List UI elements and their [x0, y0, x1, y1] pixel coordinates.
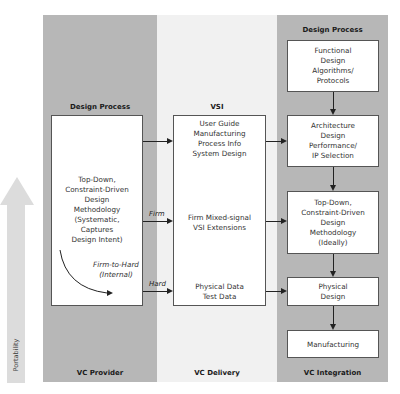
box-line: Constraint-Driven	[288, 208, 378, 218]
box-line: Protocols	[288, 76, 378, 86]
arrow-line	[333, 92, 334, 109]
box-line: (Ideally)	[288, 238, 378, 248]
box-line: Algorithms/	[288, 66, 378, 76]
arrow-right-icon	[167, 138, 173, 144]
arrow-line	[333, 254, 334, 271]
arrow-line	[266, 291, 281, 292]
arrow-right-icon	[167, 218, 173, 224]
box-line: Methodology	[288, 228, 378, 238]
box-line: Manufacturing	[288, 340, 378, 350]
arrow-line	[266, 141, 281, 142]
vsi-line: Manufacturing	[174, 129, 265, 139]
arrow-down-icon	[330, 109, 336, 115]
provider-methodology-box: Top-Down, Constraint-Driven Design Metho…	[51, 115, 143, 306]
vsi-line: Test Data	[174, 292, 265, 302]
physical-design-box: Physical Design	[287, 277, 379, 306]
integration-footer: VC Integration	[277, 369, 388, 377]
portability-label: Portability	[12, 339, 20, 372]
arrow-line	[143, 221, 167, 222]
manufacturing-box: Manufacturing	[287, 330, 379, 358]
functional-design-box: Functional Design Algorithms/ Protocols	[287, 40, 379, 92]
arrow-line	[143, 141, 167, 142]
provider-footer: VC Provider	[43, 369, 157, 377]
box-line: IP Selection	[288, 151, 378, 161]
vsi-line: Physical Data	[174, 282, 265, 292]
portability-arrow-head	[0, 177, 34, 205]
box-line: Design	[288, 218, 378, 228]
box-line: Architecture	[288, 121, 378, 131]
arrow-line	[143, 291, 167, 292]
box-line: Design	[288, 131, 378, 141]
box-line: Functional	[288, 46, 378, 56]
arrow-line	[333, 306, 334, 324]
vsi-box: User Guide Manufacturing Process Info Sy…	[173, 115, 266, 306]
integration-header: Design Process	[277, 26, 388, 34]
architecture-design-box: Architecture Design Performance/ IP Sele…	[287, 115, 379, 167]
vsi-line: VSI Extensions	[174, 223, 265, 233]
vsi-line: Process Info	[174, 139, 265, 149]
curved-arrow-icon	[52, 116, 144, 307]
box-line: Physical	[288, 282, 378, 292]
box-line: Design	[288, 292, 378, 302]
box-line: Design	[288, 56, 378, 66]
arrow-line	[333, 167, 334, 185]
box-line: Top-Down,	[288, 198, 378, 208]
vsi-line: User Guide	[174, 119, 265, 129]
arrow-down-icon	[330, 271, 336, 277]
provider-header: Design Process	[43, 103, 157, 111]
top-down-methodology-box: Top-Down, Constraint-Driven Design Metho…	[287, 191, 379, 254]
vsi-line: Firm Mixed-signal	[174, 213, 265, 223]
delivery-footer: VC Delivery	[157, 369, 277, 377]
box-line: Performance/	[288, 141, 378, 151]
delivery-header: VSI	[157, 103, 277, 111]
vsi-line: System Design	[174, 149, 265, 159]
firm-label: Firm	[149, 210, 165, 218]
hard-label: Hard	[149, 280, 166, 288]
arrow-line	[266, 221, 281, 222]
arrow-down-icon	[330, 324, 336, 330]
arrow-down-icon	[330, 185, 336, 191]
arrow-right-icon	[167, 288, 173, 294]
